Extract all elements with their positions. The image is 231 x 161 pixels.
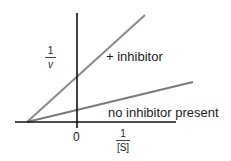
y-axis-denominator: v xyxy=(48,59,53,70)
plus-inhibitor-label: + inhibitor xyxy=(106,49,163,64)
origin-label: 0 xyxy=(73,130,80,144)
fraction-bar xyxy=(45,57,56,58)
y-axis-numerator: 1 xyxy=(48,45,54,56)
no-inhibitor-label: no inhibitor present xyxy=(108,105,219,120)
x-axis-denominator: [S] xyxy=(117,142,129,153)
x-axis-numerator: 1 xyxy=(120,128,126,139)
y-axis-label: 1 v xyxy=(45,45,56,70)
x-axis-label: 1 [S] xyxy=(116,128,130,153)
fraction-bar xyxy=(116,140,130,141)
